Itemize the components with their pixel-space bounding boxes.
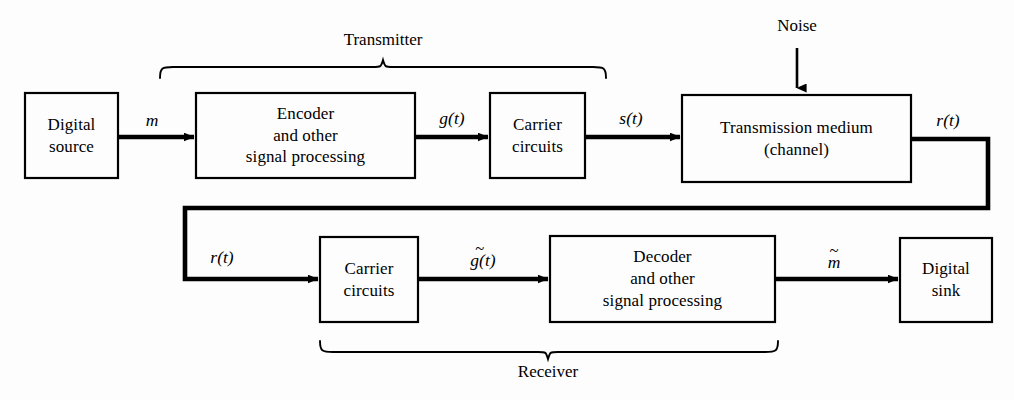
block-carrier-circuits-tx[interactable] — [490, 93, 585, 178]
signal-label-m: m — [122, 110, 182, 131]
signal-text: r(t) — [210, 247, 233, 267]
signal-text: m — [146, 110, 159, 130]
block-digital-source[interactable] — [25, 93, 118, 178]
transmitter-group-label: Transmitter — [283, 30, 483, 50]
tilde-group: ~ m — [828, 252, 841, 273]
tilde-accent-icon: ~ — [828, 243, 841, 260]
brace-receiver — [320, 341, 778, 359]
diagram-canvas: Digital source Encoder and other signal … — [0, 0, 1014, 400]
block-digital-sink[interactable] — [900, 238, 992, 322]
receiver-group-label: Receiver — [448, 362, 648, 382]
block-encoder[interactable] — [196, 93, 415, 178]
signal-label-r-t-feedback: r(t) — [192, 247, 252, 268]
noise-label: Noise — [737, 16, 857, 36]
diagram-svg — [0, 0, 1014, 400]
signal-text: s(t) — [619, 108, 642, 128]
signal-text: r(t) — [936, 110, 959, 130]
signal-label-r-t-top: r(t) — [918, 110, 978, 131]
brace-transmitter — [160, 60, 606, 78]
signal-label-s-t: s(t) — [601, 108, 661, 129]
tilde-accent-icon: ~ — [470, 241, 489, 258]
block-carrier-circuits-rx[interactable] — [320, 237, 418, 322]
signal-label-m-tilde: ~ m — [804, 252, 864, 273]
path-medium-feedback — [185, 139, 988, 279]
signal-label-g-t: g(t) — [422, 108, 482, 129]
tilde-group: ~ g(t) — [470, 250, 495, 271]
block-decoder[interactable] — [550, 236, 775, 322]
signal-label-g-tilde-t: ~ g(t) — [453, 250, 513, 271]
block-transmission-medium[interactable] — [682, 95, 911, 182]
signal-text: g(t) — [439, 108, 464, 128]
